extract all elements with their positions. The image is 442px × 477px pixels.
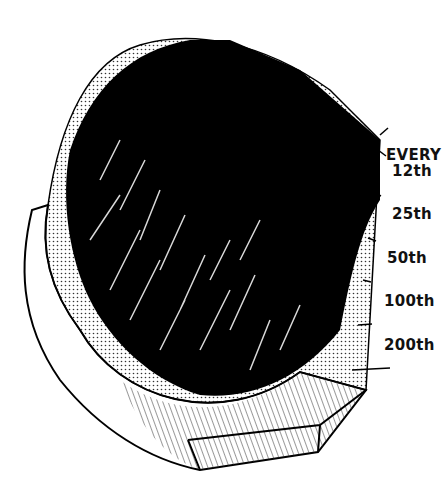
scale-label-100th: 100th: [384, 292, 435, 310]
scale-label-25th: 25th: [392, 205, 432, 223]
slab-illustration: [0, 0, 442, 477]
scale-label-50th: 50th: [387, 249, 427, 267]
scale-label-12th: 12th: [392, 162, 432, 180]
scale-label-200th: 200th: [384, 336, 435, 354]
